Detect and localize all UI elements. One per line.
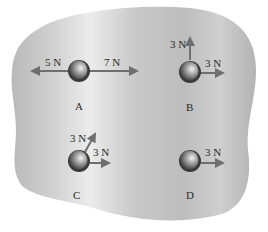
- puck-label: B: [186, 101, 193, 113]
- force-label: 3 N: [205, 57, 221, 69]
- ice-surface: [12, 7, 256, 221]
- force-label: 7 N: [104, 56, 120, 68]
- force-diagram: 5 N 7 N A 3 N 3 N B 3 N 3 N C 3 N D: [0, 0, 268, 232]
- force-label: 3 N: [93, 146, 109, 158]
- puck-label: C: [73, 189, 80, 201]
- puck-b-face: [180, 62, 199, 81]
- puck-c-face: [69, 151, 88, 170]
- puck-d-face: [180, 151, 199, 170]
- force-label: 3 N: [170, 38, 186, 50]
- puck-label: D: [186, 189, 194, 201]
- force-label: 3 N: [70, 132, 86, 144]
- puck-label: A: [75, 100, 83, 112]
- puck-a-face: [69, 61, 88, 80]
- force-label: 5 N: [45, 56, 61, 68]
- force-label: 3 N: [205, 146, 221, 158]
